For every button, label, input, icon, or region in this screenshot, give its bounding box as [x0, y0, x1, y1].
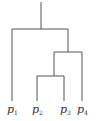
- dendrogram-branches: [12, 2, 82, 101]
- dendrogram: p1 p2 p3 p4: [0, 0, 97, 121]
- leaf-label-p3: p3: [60, 103, 71, 116]
- leaf-label-p2: p2: [32, 103, 43, 116]
- leaf-label-p4: p4: [77, 103, 88, 116]
- leaf-label-p1: p1: [7, 103, 18, 116]
